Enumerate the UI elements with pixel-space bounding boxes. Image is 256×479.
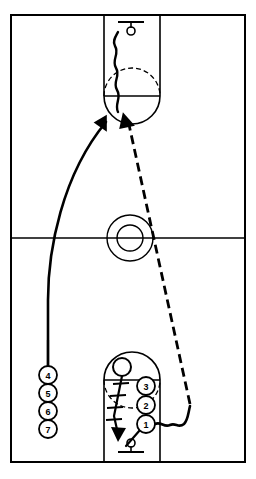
player-marker-1[interactable]: 1 <box>137 415 155 433</box>
player-marker-2[interactable]: 2 <box>137 396 155 414</box>
player-marker-5[interactable]: 5 <box>39 384 57 402</box>
court-svg: 3 2 1 4 5 6 7 <box>0 0 256 479</box>
player-number-label: 5 <box>45 389 50 399</box>
player-number-label: 4 <box>45 371 50 381</box>
player-number-label: 7 <box>45 425 50 435</box>
basketball-court-diagram: 3 2 1 4 5 6 7 <box>0 0 256 479</box>
player-marker-7[interactable]: 7 <box>39 420 57 438</box>
player-number-label: 3 <box>143 382 148 392</box>
ball-marker[interactable] <box>113 358 131 376</box>
player-marker-3[interactable]: 3 <box>137 377 155 395</box>
player-marker-6[interactable]: 6 <box>39 402 57 420</box>
player-number-label: 2 <box>143 401 148 411</box>
player-marker-4[interactable]: 4 <box>39 366 57 384</box>
player-number-label: 1 <box>143 420 148 430</box>
player-number-label: 6 <box>45 407 50 417</box>
